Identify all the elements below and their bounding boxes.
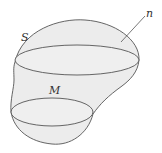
surface-body [11,20,139,144]
label-n: n [146,7,153,20]
label-m: M [48,84,61,97]
section-m-ellipse [11,98,93,126]
surface-diagram: S n M [0,0,162,153]
upper-rim-ellipse [15,45,139,75]
label-s: S [21,31,29,44]
normal-vector-line [121,16,145,42]
